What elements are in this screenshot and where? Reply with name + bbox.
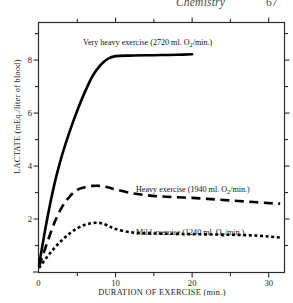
lactate-vs-exercise-chart: 2468 0102030 LACTATE (mEq./liter of bloo… (0, 0, 293, 303)
series-label-very-heavy-exercise: Very heavy exercise (2720 ml. O2/min.) (83, 38, 212, 48)
y-axis-title: LACTATE (mEq./liter of blood) (13, 32, 22, 202)
x-tick-label: 30 (261, 278, 277, 288)
x-tick-label: 0 (31, 278, 47, 288)
y-tick-label: 2 (18, 214, 32, 224)
series-label-heavy-exercise: Heavy exercise (1940 ml. O2/min.) (136, 185, 250, 195)
axis-ticks (33, 18, 290, 278)
x-tick-label: 20 (184, 278, 200, 288)
x-axis-title: DURATION OF EXERCISE (min.) (38, 288, 286, 297)
y-axis-title-text: LACTATE (mEq./liter of blood) (13, 59, 22, 173)
series-label-mild-exercise: Mild exercise (1240 ml. O2/min.) (136, 228, 244, 238)
x-tick-label: 10 (108, 278, 124, 288)
series-line-1 (39, 186, 280, 267)
